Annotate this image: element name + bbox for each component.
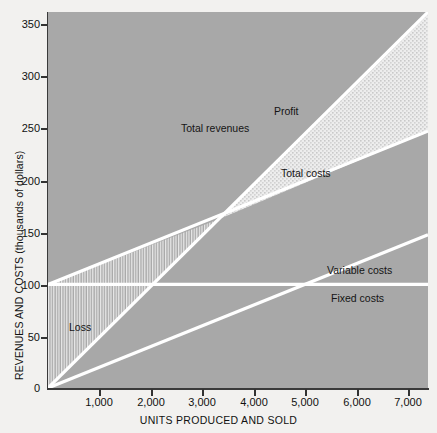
x-tick-label-5000: 5,000 [291,396,319,408]
x-tick-label-6000: 6,000 [343,396,371,408]
x-tick-label-2000: 2,000 [137,396,165,408]
y-tick-label-300: 300 [10,70,40,82]
y-tick-label-150: 150 [10,227,40,239]
y-tick-label-100: 100 [10,279,40,291]
x-tick-mark-5000 [305,389,307,396]
y-tick-label-350: 350 [10,18,40,30]
x-tick-mark-4000 [254,389,256,396]
y-tick-label-0: 0 [10,382,40,394]
break-even-chart: REVENUES AND COSTS (thousands of dollars… [0,0,437,433]
x-tick-mark-7000 [408,389,410,396]
x-tick-label-3000: 3,000 [188,396,216,408]
x-tick-label-7000: 7,000 [394,396,422,408]
y-tick-label-50: 50 [10,331,40,343]
x-axis-title: UNITS PRODUCED AND SOLD [0,414,437,426]
y-axis-ticks: 350 300 250 200 150 100 50 0 [8,0,40,433]
x-tick-mark-1000 [99,389,101,396]
plot-svg [48,12,428,388]
plot-area: Profit Total costs Variable costs Fixed … [48,12,428,388]
x-tick-mark-2000 [151,389,153,396]
y-tick-label-200: 200 [10,175,40,187]
y-tick-label-250: 250 [10,122,40,134]
x-tick-mark-3000 [202,389,204,396]
x-axis-line [47,388,429,390]
x-tick-label-4000: 4,000 [240,396,268,408]
x-tick-mark-6000 [357,389,359,396]
x-tick-label-1000: 1,000 [85,396,113,408]
